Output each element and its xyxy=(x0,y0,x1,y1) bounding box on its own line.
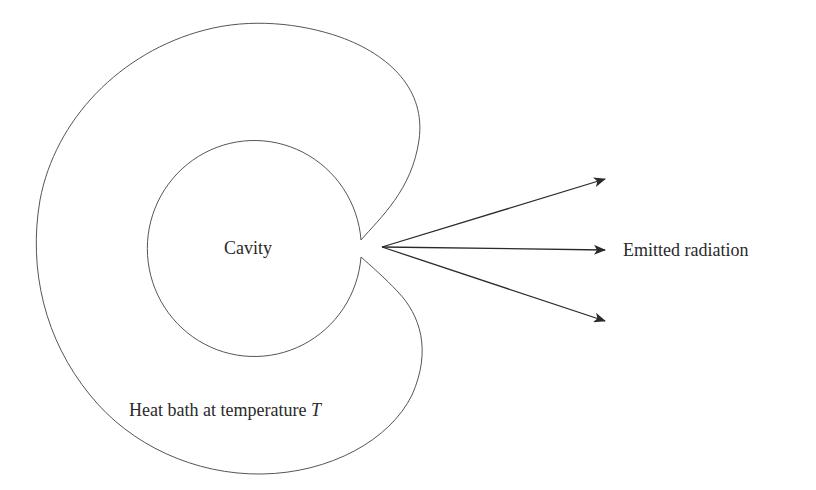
heat-bath-label-text: Heat bath at temperature xyxy=(129,400,311,420)
temperature-variable: T xyxy=(311,400,323,420)
emitted-radiation-label: Emitted radiation xyxy=(623,240,748,260)
arrow-lower xyxy=(382,247,605,321)
emitted-radiation-arrows xyxy=(382,179,605,321)
arrow-upper xyxy=(382,179,605,247)
heat-bath-label: Heat bath at temperature T xyxy=(129,400,323,420)
cavity-label: Cavity xyxy=(224,238,272,258)
arrow-middle xyxy=(382,247,605,250)
cavity-diagram: Cavity Heat bath at temperature T Emitte… xyxy=(0,0,816,490)
